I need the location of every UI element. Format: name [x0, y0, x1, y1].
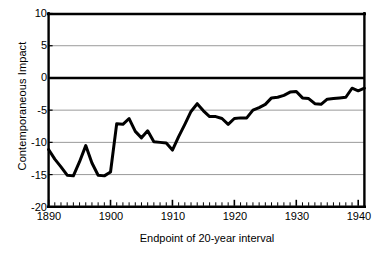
- y-tick-label: -5: [21, 105, 47, 116]
- x-tick-label: 1920: [215, 211, 255, 222]
- chart-figure: Contemporaneous Impact Endpoint of 20-ye…: [0, 0, 378, 253]
- y-tick-label: 0: [21, 72, 47, 83]
- y-tick-label: 10: [21, 8, 47, 19]
- x-tick-label: 1900: [91, 211, 131, 222]
- y-tick-label: 5: [21, 40, 47, 51]
- y-tick-label: -15: [21, 170, 47, 181]
- x-tick-label: 1940: [339, 211, 378, 222]
- x-tick-label: 1890: [29, 211, 69, 222]
- x-tick-label: 1910: [153, 211, 193, 222]
- y-tick-label: -10: [21, 137, 47, 148]
- x-tick-label: 1930: [277, 211, 317, 222]
